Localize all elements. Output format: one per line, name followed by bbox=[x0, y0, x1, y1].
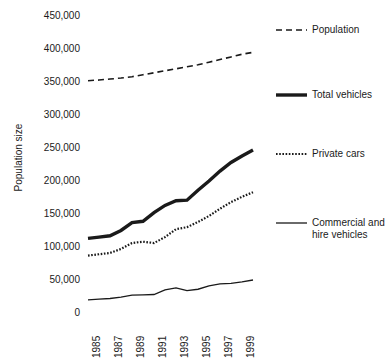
legend-line-swatch bbox=[276, 24, 307, 36]
legend-label: Commercial and hire vehicles bbox=[312, 217, 385, 240]
legend-line-swatch bbox=[276, 217, 307, 229]
chart-legend: PopulationTotal vehiclesPrivate carsComm… bbox=[276, 0, 390, 356]
legend-item: Total vehicles bbox=[276, 89, 390, 101]
legend-line-swatch bbox=[276, 89, 307, 101]
series-line bbox=[88, 150, 253, 238]
legend-label: Total vehicles bbox=[312, 89, 372, 101]
legend-item: Commercial and hire vehicles bbox=[276, 217, 390, 240]
series-line bbox=[88, 280, 253, 300]
legend-item: Population bbox=[276, 24, 390, 36]
legend-line-swatch bbox=[276, 148, 307, 160]
legend-label: Private cars bbox=[312, 148, 365, 160]
series-line bbox=[88, 52, 253, 80]
legend-label: Population bbox=[312, 24, 359, 36]
legend-item: Private cars bbox=[276, 148, 390, 160]
